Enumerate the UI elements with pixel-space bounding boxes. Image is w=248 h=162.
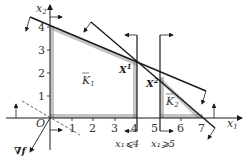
constraint-line-1 bbox=[30, 17, 206, 91]
y-tick-4: 4 bbox=[38, 21, 45, 34]
x-tick-3: 3 bbox=[111, 122, 118, 135]
gradient-label: ∇f bbox=[14, 145, 28, 156]
origin-label: O bbox=[36, 117, 45, 130]
constraint-line-2 bbox=[91, 22, 215, 128]
x-tick-5: 5 bbox=[151, 122, 158, 135]
constraint-label-ge-5: x₁⩾5 bbox=[151, 138, 175, 149]
point-x1-label: X1 bbox=[118, 62, 132, 75]
constraint-2-arrow-icon bbox=[84, 22, 91, 32]
constraint-1-arrow-end-icon bbox=[202, 91, 206, 104]
constraint-2-arrow-end-icon bbox=[208, 128, 215, 139]
x-axis-label: x1 bbox=[227, 117, 238, 131]
x-tick-2: 2 bbox=[89, 122, 96, 135]
region-k1-label: K1 bbox=[81, 74, 95, 88]
lp-diagram: x2 x1 O 1 2 3 4 5 6 7 1 2 3 4 K1 K2 X1 X… bbox=[0, 0, 248, 162]
y-tick-2: 2 bbox=[38, 67, 45, 80]
x-tick-1: 1 bbox=[69, 122, 76, 135]
x-tick-6: 6 bbox=[177, 122, 184, 135]
x-tick-4: 4 bbox=[131, 122, 138, 135]
y-tick-1: 1 bbox=[38, 90, 45, 103]
constraint-label-le-4: x₁⩽4 bbox=[115, 138, 139, 149]
x-tick-7: 7 bbox=[198, 122, 205, 135]
point-x2-label: X2 bbox=[145, 76, 159, 89]
y-axis-label: x2 bbox=[36, 2, 47, 16]
constraint-1-arrow-icon bbox=[26, 17, 30, 31]
y-tick-3: 3 bbox=[38, 44, 45, 57]
